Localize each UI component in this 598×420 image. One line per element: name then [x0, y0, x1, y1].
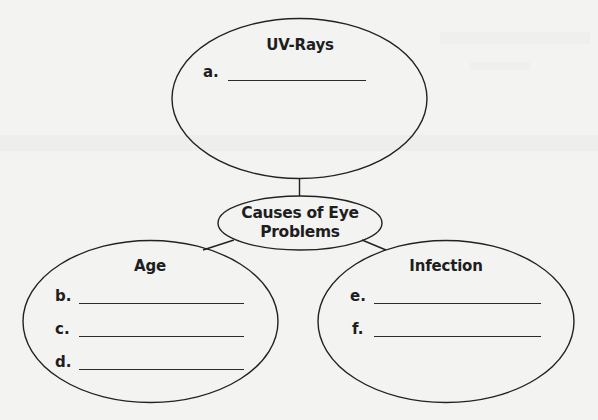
center-title-line1: Causes of Eye [241, 204, 358, 223]
answer-blank-f[interactable] [374, 336, 541, 337]
item-label-a: a. [203, 63, 219, 81]
connector-center-to-infection [362, 240, 386, 250]
center-title: Causes of Eye Problems [241, 204, 358, 242]
uv-rays-title: UV-Rays [266, 36, 333, 54]
concept-map-canvas: UV-Rays a. Causes of Eye Problems Age b.… [0, 0, 598, 420]
answer-blank-d[interactable] [79, 369, 244, 370]
item-label-d: d. [55, 353, 71, 371]
infection-title: Infection [409, 257, 482, 275]
answer-blank-a[interactable] [228, 80, 366, 81]
answer-blank-b[interactable] [79, 303, 244, 304]
item-label-b: b. [55, 287, 71, 305]
answer-blank-c[interactable] [79, 336, 244, 337]
answer-blank-e[interactable] [374, 303, 541, 304]
center-title-line2: Problems [241, 223, 358, 242]
item-label-c: c. [55, 320, 70, 338]
item-label-e: e. [350, 287, 366, 305]
age-title: Age [134, 257, 166, 275]
item-label-f: f. [352, 320, 363, 338]
